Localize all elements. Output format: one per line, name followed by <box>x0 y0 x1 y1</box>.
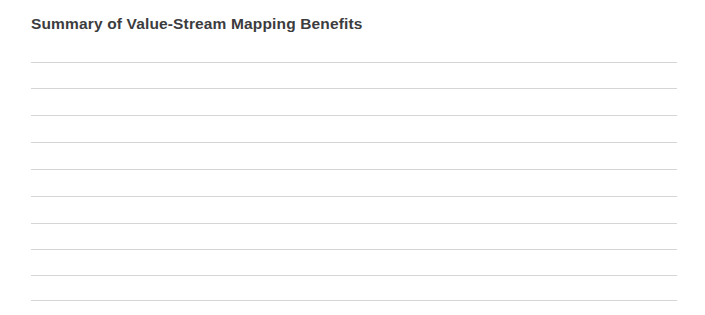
answer-line-9[interactable] <box>31 275 677 276</box>
answer-lines-group <box>31 0 677 315</box>
answer-line-3[interactable] <box>31 115 677 116</box>
answer-line-1[interactable] <box>31 62 677 63</box>
answer-line-10[interactable] <box>31 300 677 301</box>
answer-line-4[interactable] <box>31 142 677 143</box>
worksheet-page: Summary of Value-Stream Mapping Benefits <box>0 0 705 315</box>
answer-line-8[interactable] <box>31 249 677 250</box>
answer-line-5[interactable] <box>31 169 677 170</box>
answer-line-2[interactable] <box>31 88 677 89</box>
answer-line-6[interactable] <box>31 196 677 197</box>
answer-line-7[interactable] <box>31 223 677 224</box>
